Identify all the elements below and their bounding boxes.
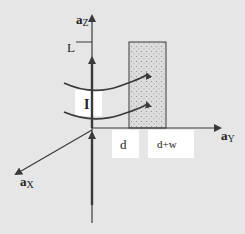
rectangular-loop [129, 42, 166, 128]
height-label: L [67, 40, 75, 55]
current-label: I [84, 97, 89, 112]
x-axis-label: aX [20, 174, 35, 190]
inner-edge-label: d [120, 137, 127, 152]
outer-edge-label: d+w [157, 138, 177, 150]
z-axis-label: aZ [76, 12, 89, 28]
diagram-canvas: aZ L I d d+w aY aX [0, 0, 245, 234]
x-axis [16, 130, 92, 174]
y-axis-label: aY [221, 128, 235, 144]
